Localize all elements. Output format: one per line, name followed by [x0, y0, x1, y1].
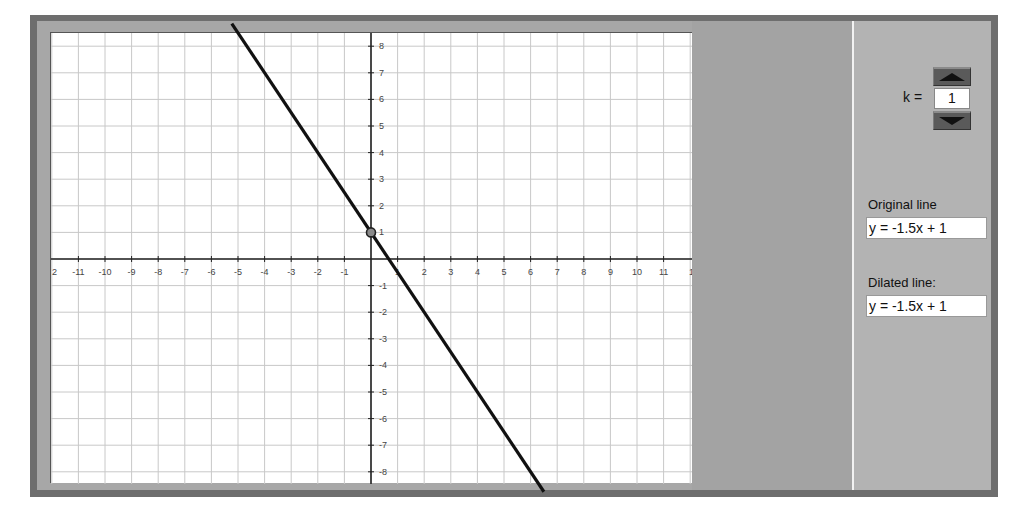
- y-tick-label: -7: [379, 440, 387, 450]
- k-decrease-button[interactable]: [933, 111, 971, 130]
- y-tick-label: -3: [379, 334, 387, 344]
- x-tick-label: -10: [98, 267, 111, 277]
- original-line-equation: y = -1.5x + 1: [866, 217, 987, 239]
- dilated-line-label: Dilated line:: [868, 275, 936, 290]
- y-tick-label: 3: [379, 174, 384, 184]
- middle-panel: [692, 21, 852, 490]
- original-line-label: Original line: [868, 197, 937, 212]
- y-tick-label: 7: [379, 68, 384, 78]
- x-tick-label: 5: [501, 267, 506, 277]
- x-tick-label: -4: [261, 267, 269, 277]
- x-tick-label: 2: [52, 267, 57, 277]
- x-tick-label: -9: [128, 267, 136, 277]
- x-tick-label: 9: [608, 267, 613, 277]
- triangle-down-icon: [939, 117, 965, 125]
- graphed-line: [232, 24, 544, 492]
- x-tick-label: 7: [555, 267, 560, 277]
- x-tick-label: -8: [154, 267, 162, 277]
- x-tick-label: 11: [659, 267, 668, 277]
- y-tick-label: -8: [379, 467, 387, 477]
- y-tick-label: -6: [379, 414, 387, 424]
- x-tick-label: 10: [632, 267, 642, 277]
- intercept-point-handle: [367, 228, 376, 237]
- y-tick-label: 1: [379, 227, 384, 237]
- x-tick-label: -11: [72, 267, 84, 277]
- x-tick-label: 6: [528, 267, 533, 277]
- dilated-line-equation: y = -1.5x + 1: [866, 295, 987, 317]
- k-value-field[interactable]: 1: [934, 88, 970, 109]
- y-tick-label: -5: [379, 387, 387, 397]
- k-increase-button[interactable]: [933, 67, 971, 86]
- y-tick-label: 8: [379, 41, 384, 51]
- x-tick-label: -5: [234, 267, 242, 277]
- y-tick-label: -2: [379, 307, 387, 317]
- x-tick-label: 3: [448, 267, 453, 277]
- y-tick-label: -1: [379, 281, 387, 291]
- y-tick-label: 2: [379, 201, 384, 211]
- x-tick-label: -1: [340, 267, 348, 277]
- x-tick-label: -2: [314, 267, 322, 277]
- x-tick-label: -7: [181, 267, 189, 277]
- y-tick-label: -4: [379, 360, 387, 370]
- x-tick-label: -3: [287, 267, 295, 277]
- control-panel: [854, 21, 991, 490]
- y-tick-label: 5: [379, 121, 384, 131]
- x-tick-label: 4: [475, 267, 480, 277]
- y-tick-label: 6: [379, 94, 384, 104]
- coordinate-plane[interactable]: -11-10-9-8-7-6-5-4-3-2-11234567891011218…: [50, 32, 692, 483]
- k-label: k =: [903, 89, 922, 105]
- y-tick-label: 4: [379, 148, 384, 158]
- triangle-up-icon: [939, 73, 965, 81]
- x-tick-label: 2: [422, 267, 427, 277]
- x-tick-label: 8: [581, 267, 586, 277]
- graph-svg: -11-10-9-8-7-6-5-4-3-2-11234567891011218…: [50, 32, 694, 492]
- x-tick-label: -6: [207, 267, 215, 277]
